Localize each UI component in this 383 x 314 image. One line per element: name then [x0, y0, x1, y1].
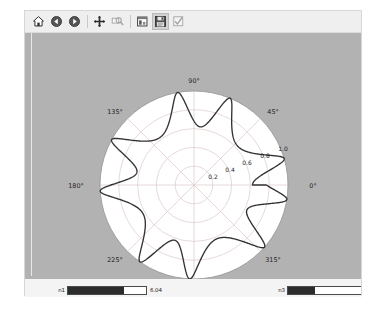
r-tick-0-4: 0.4: [225, 166, 235, 173]
slider-n1[interactable]: n1 6.04: [53, 286, 162, 295]
slider-n3-fill: [288, 287, 315, 294]
theta-tick-0: 0°: [309, 182, 316, 190]
toolbar-separator-2: [130, 15, 131, 28]
figure-canvas[interactable]: 0° 45° 90° 135° 180° 225° 270° 315° 0.2 …: [25, 33, 361, 297]
pan-move-icon[interactable]: [91, 13, 108, 30]
polar-axes[interactable]: 0° 45° 90° 135° 180° 225° 270° 315° 0.2 …: [25, 33, 361, 297]
slider-n1-value: 6.04: [150, 286, 162, 295]
theta-tick-135: 135°: [107, 108, 122, 116]
theta-tick-45: 45°: [267, 108, 278, 116]
theta-tick-225: 225°: [107, 256, 122, 264]
r-tick-1-0: 1.0: [278, 145, 288, 152]
forward-arrow-icon[interactable]: [66, 13, 83, 30]
toolbar-separator-1: [87, 15, 88, 28]
r-tick-0-8: 0.8: [260, 152, 270, 159]
r-tick-0-2: 0.2: [208, 173, 218, 180]
r-tick-0-6: 0.6: [242, 159, 252, 166]
zoom-rect-icon[interactable]: [109, 13, 126, 30]
theta-tick-315: 315°: [265, 256, 280, 264]
back-arrow-icon[interactable]: [48, 13, 65, 30]
configure-subplots-icon[interactable]: [134, 13, 151, 30]
slider-n1-track[interactable]: [67, 286, 147, 295]
save-figure-icon[interactable]: [152, 13, 169, 30]
theta-tick-90: 90°: [188, 77, 199, 85]
slider-n3[interactable]: n3 6.07: [273, 286, 361, 295]
slider-n3-label: n3: [273, 286, 285, 295]
slider-n3-track[interactable]: [287, 286, 361, 295]
theta-tick-180: 180°: [68, 182, 83, 190]
slider-n1-fill: [68, 287, 124, 294]
plot-window: 0° 45° 90° 135° 180° 225° 270° 315° 0.2 …: [24, 10, 362, 296]
edit-axis-icon[interactable]: [170, 13, 187, 30]
slider-n1-label: n1: [53, 286, 65, 295]
home-icon[interactable]: [30, 13, 47, 30]
matplotlib-toolbar: [25, 11, 361, 33]
